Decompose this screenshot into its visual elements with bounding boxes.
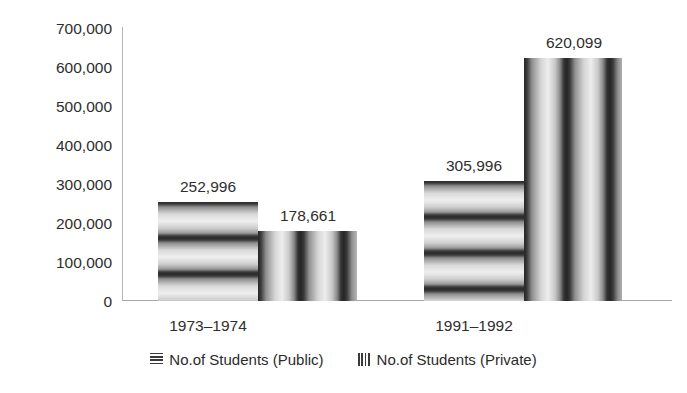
- bar-public-1991-1992[interactable]: [424, 181, 524, 301]
- legend-item-public[interactable]: No.of Students (Public): [150, 352, 323, 367]
- plot-area: 252,996 178,661 305,996 620,099: [122, 27, 672, 301]
- y-axis-tick-label: 0: [2, 294, 112, 310]
- y-axis-tick-label: 200,000: [2, 216, 112, 232]
- bar-value-label-private-1991-1992: 620,099: [514, 35, 634, 51]
- legend: No.of Students (Public) No.of Students (…: [0, 352, 687, 367]
- bar-public-1973-1974[interactable]: [158, 202, 258, 301]
- y-axis-tick-label: 500,000: [2, 99, 112, 115]
- bar-value-label-private-1973-1974: 178,661: [248, 208, 368, 224]
- y-axis-tick-label: 100,000: [2, 255, 112, 271]
- x-axis-category-label-2: 1991–1992: [404, 318, 544, 334]
- bar-value-label-public-1991-1992: 305,996: [414, 158, 534, 174]
- x-axis-category-label-1: 1973–1974: [138, 318, 278, 334]
- bar-private-1991-1992[interactable]: [524, 58, 622, 301]
- y-axis-tick-label: 700,000: [2, 21, 112, 37]
- legend-item-label: No.of Students (Private): [377, 352, 537, 367]
- bar-chart: 700,000 600,000 500,000 400,000 300,000 …: [0, 0, 687, 393]
- horizontal-stripes-swatch-icon: [150, 353, 163, 366]
- legend-item-label: No.of Students (Public): [169, 352, 323, 367]
- bar-value-label-public-1973-1974: 252,996: [148, 179, 268, 195]
- vertical-stripes-swatch-icon: [358, 353, 371, 366]
- y-axis-tick-label: 300,000: [2, 177, 112, 193]
- legend-item-private[interactable]: No.of Students (Private): [358, 352, 537, 367]
- bar-private-1973-1974[interactable]: [258, 231, 357, 301]
- y-axis-tick-label: 600,000: [2, 60, 112, 76]
- y-axis-tick-label: 400,000: [2, 138, 112, 154]
